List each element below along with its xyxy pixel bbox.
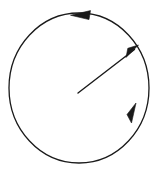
figure-container — [0, 0, 162, 173]
circle-rotation-diagram — [0, 0, 162, 173]
diagram-background — [0, 0, 162, 173]
